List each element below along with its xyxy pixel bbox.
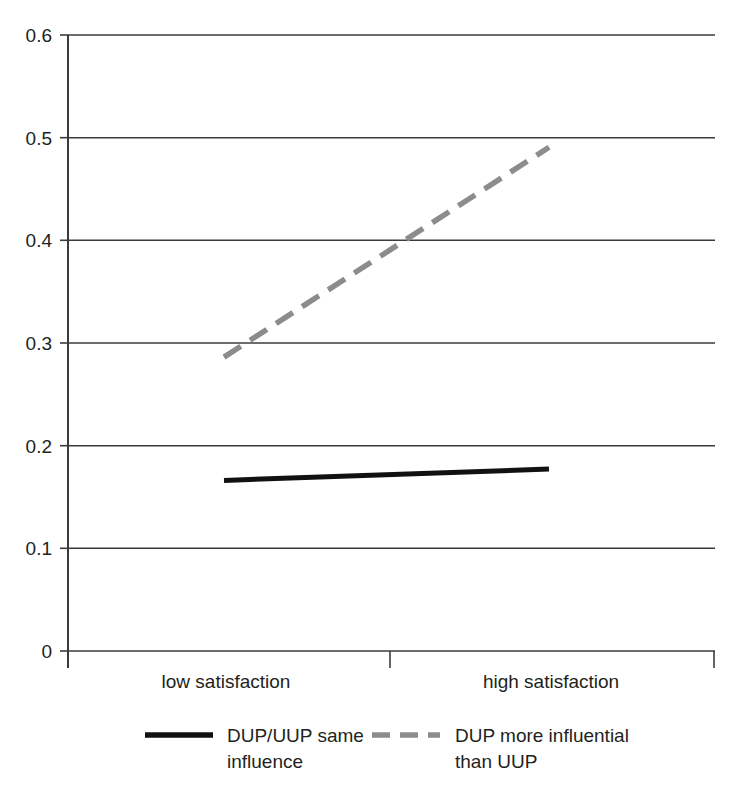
x-tick-label-high-satisfaction: high satisfaction xyxy=(483,671,619,692)
legend-label-1-line2: influence xyxy=(227,751,303,772)
y-tick-label-0.6: 0.6 xyxy=(26,25,52,46)
series-line-dup-uup-same-influence xyxy=(224,469,549,480)
y-tick-label-0.2: 0.2 xyxy=(26,436,52,457)
y-tick-label-0: 0 xyxy=(41,641,52,662)
chart-legend: DUP/UUP same influence DUP more influent… xyxy=(145,725,629,772)
y-tick-label-0.4: 0.4 xyxy=(26,230,53,251)
y-tick-label-0.1: 0.1 xyxy=(26,538,52,559)
x-axis-ticks xyxy=(68,651,714,668)
y-axis-ticks xyxy=(60,35,68,651)
y-tick-label-0.3: 0.3 xyxy=(26,333,52,354)
gridlines xyxy=(68,35,715,651)
chart-canvas: 0.6 0.5 0.4 0.3 0.2 0.1 0 low satisfacti… xyxy=(0,0,731,792)
y-tick-label-0.5: 0.5 xyxy=(26,128,52,149)
y-axis-tick-labels: 0.6 0.5 0.4 0.3 0.2 0.1 0 xyxy=(26,25,53,662)
series-line-dup-more-influential xyxy=(224,147,549,357)
chart-figure: 0.6 0.5 0.4 0.3 0.2 0.1 0 low satisfacti… xyxy=(0,0,731,792)
legend-label-1-line1: DUP/UUP same xyxy=(227,725,364,746)
x-tick-label-low-satisfaction: low satisfaction xyxy=(162,671,291,692)
x-axis-tick-labels: low satisfaction high satisfaction xyxy=(162,671,620,692)
legend-label-2-line2: than UUP xyxy=(455,751,537,772)
legend-label-2-line1: DUP more influential xyxy=(455,725,629,746)
